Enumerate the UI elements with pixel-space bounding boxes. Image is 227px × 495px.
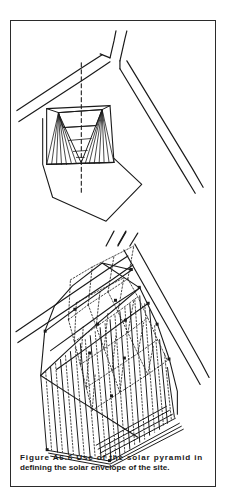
panel-site-plan bbox=[17, 31, 203, 246]
panel-solar-envelope-perspective bbox=[16, 231, 209, 467]
pyramid-hatch-right bbox=[85, 110, 114, 164]
pyramid-hatch-left bbox=[47, 113, 77, 165]
road-bottom-stubs bbox=[106, 231, 126, 246]
pyramid-corner-left bbox=[47, 109, 59, 113]
figure-frame: Figure A6.6 Use of the solar pyramid in … bbox=[10, 20, 216, 487]
road-upper-left bbox=[17, 55, 110, 122]
figure-illustration bbox=[11, 21, 215, 486]
envelope-dotted-grid bbox=[68, 246, 167, 410]
road-top-vertical bbox=[110, 31, 127, 61]
caption-line-1: Figure A6.6 Use of the solar pyramid in bbox=[20, 453, 207, 464]
road-right-diagonal bbox=[120, 61, 203, 193]
caption-line-2: defining the solar envelope of the site. bbox=[20, 463, 207, 474]
figure-drawing-area bbox=[11, 21, 215, 486]
figure-caption: Figure A6.6 Use of the solar pyramid in … bbox=[20, 453, 207, 474]
perspective-road-right bbox=[124, 244, 209, 384]
